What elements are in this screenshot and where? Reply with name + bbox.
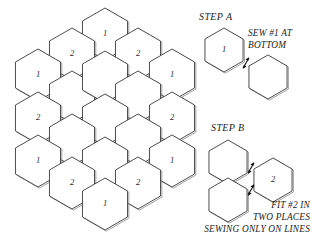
hexagon-piece-number: 1	[222, 44, 226, 54]
step-a-hex-1: 1	[205, 28, 244, 73]
hexagon-piece-number: 1	[170, 155, 174, 165]
step-b-section: 2	[209, 140, 293, 223]
hexagon-piece-number: 1	[103, 28, 107, 38]
step-b-title: STEP B	[211, 122, 245, 133]
step-a-title: STEP A	[199, 11, 233, 22]
step-b-note-line-0: FIT #2 IN	[270, 200, 310, 210]
diagram-canvas: 122112211221 1 2 STEP ASEW #1 ATBOTTOMST…	[0, 0, 318, 249]
step-a-section: 1	[205, 28, 288, 100]
hexagon-piece-number: 1	[36, 69, 40, 79]
hexagon-piece-number: 1	[170, 69, 174, 79]
diagram-root: 122112211221 1 2 STEP ASEW #1 ATBOTTOMST…	[0, 0, 318, 249]
hexagon-piece-number: 1	[36, 155, 40, 165]
step-a-hex-new	[249, 55, 288, 100]
hexagon-shape	[209, 178, 247, 222]
step-b-join-arrow-bottom	[248, 184, 254, 196]
step-b-hex-lower	[209, 178, 248, 223]
hexagon-shape	[209, 140, 247, 184]
hexagon-grid: 122112211221	[15, 8, 195, 231]
hexagon-shape	[249, 55, 287, 99]
step-a-note-line-1: BOTTOM	[248, 40, 287, 50]
step-b-note-line-1: TWO PLACES	[253, 212, 310, 222]
step-b-join-arrow-top	[248, 162, 254, 174]
step-a-join-arrow	[243, 57, 249, 69]
step-b-hex-2: 2	[254, 158, 293, 203]
hexagon-piece-number: 1	[103, 198, 107, 208]
step-b-note-line-2: SEWING ONLY ON LINES	[204, 224, 310, 234]
step-a-note-line-0: SEW #1 AT	[248, 28, 293, 38]
